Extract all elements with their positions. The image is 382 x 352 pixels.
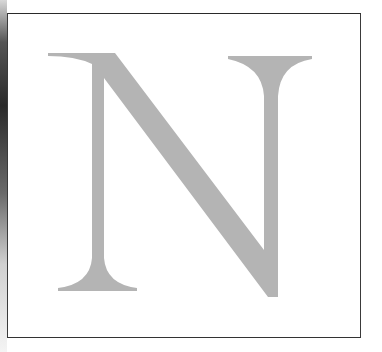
serif-letter-n: N xyxy=(0,0,382,352)
